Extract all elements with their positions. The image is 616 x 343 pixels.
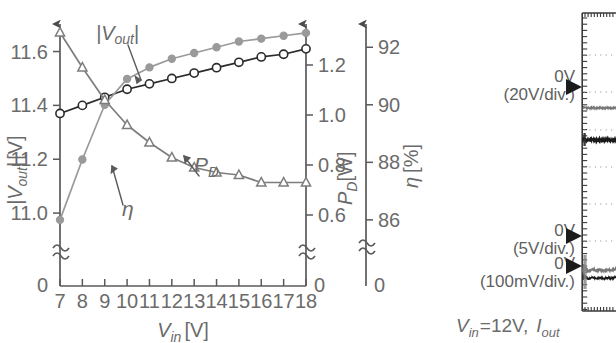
x-axis-title: Vin[V] [157, 319, 209, 343]
series-line [60, 33, 306, 183]
scope-zero-pointers [564, 0, 584, 343]
vout-callout-tail: | [134, 22, 139, 44]
y-right1-title-main: P [334, 191, 356, 205]
y-right2-title-unit: [%] [400, 144, 422, 173]
y-right2-tick-marks [366, 47, 373, 220]
vout-callout: |Vout| [96, 22, 139, 47]
y-right2-zero-label: 0 [374, 274, 385, 296]
data-point [235, 58, 243, 66]
marker-ch3-zero: 0V [480, 255, 575, 273]
x-tick-label: 17 [273, 290, 295, 312]
data-point [78, 101, 86, 109]
pointer-ch3-icon [566, 258, 582, 274]
data-point [190, 69, 198, 77]
data-point [146, 64, 153, 71]
caption-v-eq: =12V, [480, 315, 528, 336]
data-point [280, 50, 288, 58]
data-point [235, 38, 242, 45]
y-right1-title-sub: D [344, 182, 360, 192]
x-tick-label: 14 [205, 290, 227, 312]
x-tick-label: 15 [228, 290, 250, 312]
performance-chart: 789101112131415161718 11.611.411.211.0 1… [0, 0, 430, 343]
oscilloscope-panel: 0V (20V/div.) 0V (5V/div.) 0V (100mV/div… [440, 0, 608, 343]
pointer-ch2-icon [566, 228, 582, 244]
series- [56, 29, 309, 223]
y-right2-title-main: η [400, 177, 422, 188]
y-right1-zero-label: 0 [314, 274, 325, 296]
data-point [56, 109, 64, 117]
x-tick-label: 16 [250, 290, 272, 312]
y-left-title-sub: out [14, 166, 30, 187]
x-tick-label: 10 [116, 290, 138, 312]
data-point [145, 138, 154, 147]
y-right1-title-unit: [W] [334, 152, 356, 182]
series-line [60, 49, 306, 114]
x-axis-title-sub: in [170, 329, 181, 343]
scope-screen [581, 12, 616, 312]
pd-callout: PD [194, 153, 219, 180]
y-tick-label: 92 [378, 36, 400, 58]
caption-v-sub: in [469, 325, 479, 340]
axis-break-left [53, 245, 69, 259]
data-point [302, 45, 310, 53]
y-left-title-tail: | [4, 162, 26, 167]
x-tick-label: 8 [77, 290, 88, 312]
y-tick-label: 1.2 [318, 54, 346, 76]
data-curves [55, 28, 310, 224]
y-tick-label: 86 [378, 209, 400, 231]
x-tick-label: 12 [161, 290, 183, 312]
eta-callout: η [122, 197, 134, 220]
x-tick-labels: 789101112131415161718 [54, 290, 317, 312]
x-tick-label: 11 [139, 290, 160, 312]
x-tick-label: 13 [183, 290, 205, 312]
y-right1-tick-marks [306, 65, 313, 215]
x-tick-marks [60, 279, 306, 286]
pd-callout-main: P [194, 153, 208, 176]
vout-callout-main: |V [96, 22, 116, 44]
y-tick-label: 11.6 [11, 41, 48, 63]
data-point [79, 156, 86, 163]
y-axis-right1-title: PD[W] [334, 152, 360, 205]
data-point [212, 64, 220, 72]
y-left-title-unit: [V] [4, 135, 26, 159]
vout-callout-sub: out [115, 31, 136, 47]
svg-text:Vin=12V,Iout: Vin=12V,Iout [456, 315, 561, 340]
marker-ch3-scale: (100mV/div.) [480, 273, 575, 291]
marker-ch3-text: 0V (100mV/div.) [480, 255, 575, 291]
data-point [56, 216, 63, 223]
data-point [257, 53, 265, 61]
series-line [60, 33, 306, 220]
data-point [280, 32, 287, 39]
data-point [55, 28, 64, 37]
data-point [145, 80, 153, 88]
y-left-zero-label: 0 [37, 274, 48, 296]
axis-break-right2 [359, 240, 375, 254]
data-point [168, 74, 176, 82]
caption-i-sub: out [542, 325, 561, 340]
x-tick-label: 9 [99, 290, 110, 312]
scope-caption: Vin=12V,Iout [440, 308, 608, 342]
pointer-ch1-icon [566, 79, 582, 95]
data-point [168, 55, 175, 62]
y-tick-label: 1.0 [318, 104, 346, 126]
data-point [258, 35, 265, 42]
data-point [123, 85, 131, 93]
pd-callout-sub: D [208, 163, 219, 180]
y-tick-label: 11.4 [11, 94, 48, 116]
data-point [213, 44, 220, 51]
data-point [123, 75, 130, 82]
y-axis-right2-title: η[%] [400, 144, 422, 188]
y-right2-tick-labels: 92908886 [378, 36, 400, 231]
axis-break-right1 [299, 245, 315, 259]
y-tick-label: 90 [378, 94, 400, 116]
data-point [302, 29, 309, 36]
x-axis-title-unit: [V] [184, 319, 208, 341]
y-left-tick-marks [53, 52, 60, 214]
y-tick-label: 88 [378, 151, 400, 173]
data-point [191, 49, 198, 56]
y-left-title-main: |V [4, 185, 26, 205]
x-tick-label: 7 [54, 290, 65, 312]
y-axis-left-title: |Vout|[V] [4, 135, 30, 205]
data-point [167, 153, 176, 162]
